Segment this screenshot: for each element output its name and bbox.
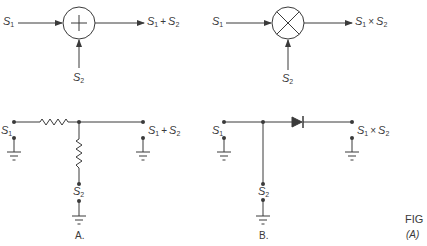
ground-icon: [7, 152, 21, 160]
block-a-output-label: S1+S2: [147, 16, 179, 28]
ground-icon: [72, 216, 86, 224]
block-b-input1-label: S1: [212, 16, 223, 28]
ground-icon: [136, 152, 150, 160]
figure-label: FIG: [405, 214, 423, 225]
circuit-a-input2-label: S2: [73, 186, 84, 198]
block-b-output-label: S1×S2: [355, 16, 387, 28]
series-resistor-icon: [40, 119, 68, 125]
block-a-input2-label: S2: [73, 72, 84, 84]
block-b-input2-label: S2: [282, 73, 293, 85]
panel-a-caption: A.: [75, 231, 84, 241]
figure-sublabel: (A): [406, 230, 419, 240]
ground-icon: [256, 216, 270, 224]
ground-icon: [345, 152, 359, 160]
diode-icon: [292, 117, 302, 127]
circuit-a-input1-label: S1: [1, 125, 12, 137]
shunt-resistor-icon: [76, 139, 82, 168]
summer-block: [18, 7, 144, 68]
diagram-canvas: [0, 0, 427, 246]
ground-icon: [217, 152, 231, 160]
diode-mixer-circuit: [217, 116, 359, 224]
terminal-dots: [12, 120, 354, 203]
circuit-b-input2-label: S2: [258, 186, 269, 198]
circuit-b-input1-label: S1: [212, 125, 223, 137]
circuit-b-output-label: S1×S2: [357, 125, 389, 137]
multiplier-block: [226, 7, 352, 70]
circuit-a-output-label: S1+S2: [148, 125, 180, 137]
panel-b-caption: B.: [259, 231, 268, 241]
resistor-mixer-circuit: [7, 119, 150, 224]
block-a-input1-label: S1: [3, 16, 14, 28]
